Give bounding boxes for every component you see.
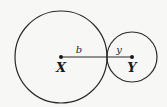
point-y-dot (130, 55, 134, 59)
background (0, 0, 167, 107)
segment-label-b: b (76, 44, 82, 55)
point-x-dot (59, 55, 63, 59)
tangent-circles-diagram: X Y b y (0, 0, 167, 107)
segment-label-y: y (115, 44, 122, 55)
point-x-label: X (55, 60, 67, 75)
